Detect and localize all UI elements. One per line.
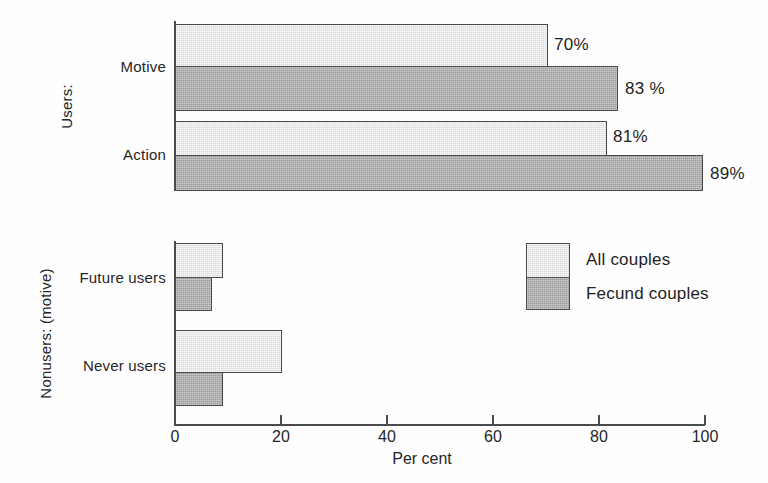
x-tick-label-0: 0 [155, 428, 195, 446]
bar-motive-all-couples [175, 24, 548, 67]
x-tick-label-80: 80 [579, 428, 619, 446]
bar-future-users-all-couples [175, 243, 223, 278]
x-tick-label-20: 20 [261, 428, 301, 446]
bar-value-motive-all-couples: 70% [554, 35, 589, 55]
bar-action-fecund-couples [175, 155, 703, 191]
x-tick-100 [704, 415, 706, 425]
legend-swatch-fecund-couples [527, 277, 569, 309]
x-tick-40 [386, 415, 388, 425]
chart-figure: Users: Motive Action 70% 83 % 81% 89% No… [0, 0, 768, 483]
bar-value-motive-fecund-couples: 83 % [625, 79, 665, 99]
bar-never-users-all-couples [175, 330, 282, 373]
x-tick-80 [598, 415, 600, 425]
x-tick-60 [492, 415, 494, 425]
x-axis-title: Per cent [0, 450, 768, 468]
bar-future-users-fecund-couples [175, 277, 212, 311]
category-label-motive: Motive [48, 58, 166, 75]
x-axis-title-text: Per cent [392, 450, 452, 467]
legend-label-all-couples: All couples [586, 250, 670, 270]
x-tick-20 [280, 415, 282, 425]
category-label-never-users: Never users [28, 357, 166, 374]
x-tick-label-60: 60 [473, 428, 513, 446]
category-label-future-users: Future users [28, 269, 166, 286]
bar-value-action-all-couples: 81% [613, 127, 648, 147]
x-tick-0 [174, 415, 176, 425]
bar-motive-fecund-couples [175, 66, 618, 111]
x-axis-line [174, 424, 705, 426]
x-tick-label-100: 100 [685, 428, 725, 446]
bar-never-users-fecund-couples [175, 372, 223, 406]
x-tick-label-40: 40 [367, 428, 407, 446]
legend-label-fecund-couples: Fecund couples [586, 284, 709, 304]
bar-value-action-fecund-couples: 89% [710, 164, 745, 184]
bar-action-all-couples [175, 121, 607, 156]
legend-swatch-all-couples [527, 244, 569, 277]
category-label-action: Action [48, 146, 166, 163]
legend-swatch-box [526, 243, 570, 310]
